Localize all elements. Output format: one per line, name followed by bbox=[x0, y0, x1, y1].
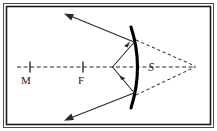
label-s: S bbox=[148, 61, 154, 73]
label-f: F bbox=[78, 74, 84, 86]
inner-frame bbox=[7, 7, 211, 125]
label-m: M bbox=[21, 74, 31, 86]
ray-diagram-canvas: M F S bbox=[0, 0, 217, 131]
ray-diagram-figure: M F S bbox=[0, 0, 217, 131]
